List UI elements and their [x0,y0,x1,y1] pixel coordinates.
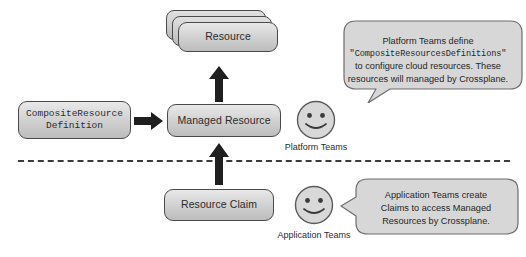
resource-claim-label: Resource Claim [181,198,257,211]
application-teams-speech-bubble: Application Teams create Claims to acces… [340,176,520,238]
application-teams-bubble-text: Application Teams create Claims to acces… [356,189,516,228]
bubble-line-1: Platform Teams define [332,35,524,48]
diagram-canvas: Resource CompositeResource Definition Ma… [0,0,526,257]
composite-resource-definition-box[interactable]: CompositeResource Definition [18,101,131,139]
managed-resource-label: Managed Resource [177,114,270,127]
managed-resource-box[interactable]: Managed Resource [167,104,281,137]
resource-card-label: Resource [205,30,251,43]
bubble-line-4: resources will managed by Crossplane. [332,73,524,86]
arrow-crd-to-managed-resource [134,112,164,130]
composite-resource-definition-label: CompositeResource Definition [26,108,123,132]
platform-teams-avatar[interactable] [296,100,336,140]
platform-teams-bubble-text: Platform Teams define "CompositeResource… [332,35,524,86]
platform-teams-speech-bubble: Platform Teams define "CompositeResource… [332,11,524,103]
platform-teams-label: Platform Teams [266,142,366,152]
application-teams-avatar[interactable] [294,185,334,225]
team-boundary-divider [18,160,510,162]
bubble-line-3: to configure cloud resources. These [332,60,524,73]
bubble-line-3: Resources by Crossplane. [356,215,516,228]
bubble-line-2: Claims to access Managed [356,202,516,215]
bubble-line-1: Application Teams create [356,189,516,202]
resource-card-front[interactable]: Resource [178,22,278,52]
arrow-managed-resource-to-resource [208,66,230,102]
arrow-resource-claim-to-managed-resource [208,143,230,185]
bubble-line-2: "CompositeResourcesDefinitions" [332,48,524,60]
resource-claim-box[interactable]: Resource Claim [164,189,274,221]
